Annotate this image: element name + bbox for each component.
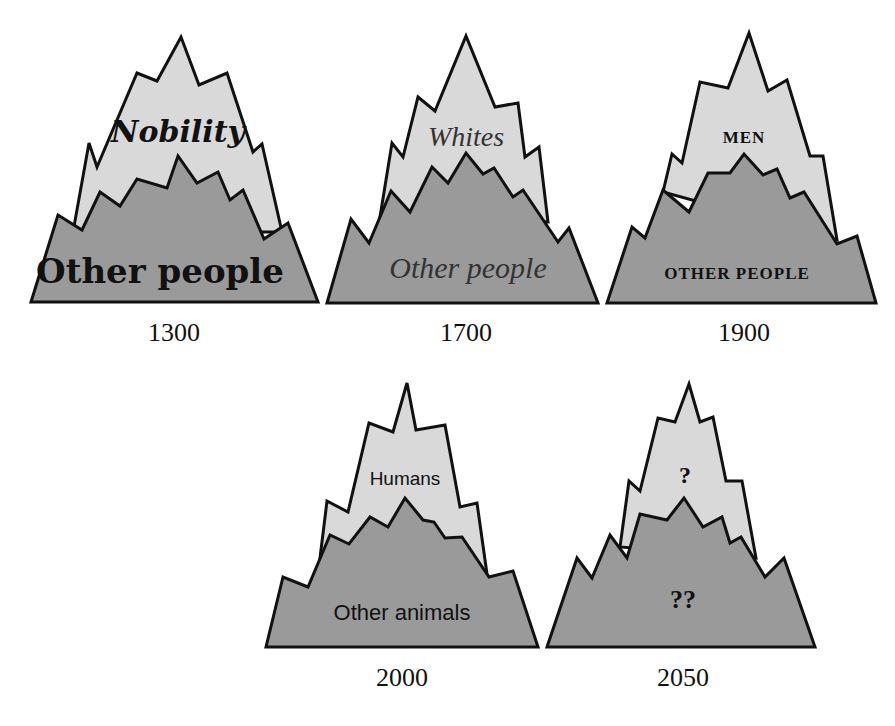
upper-label: Nobility [110, 114, 247, 149]
mountain-1900: MEN OTHER PEOPLE 1900 [607, 33, 876, 347]
year-label: 2050 [657, 663, 709, 692]
mountain-2050: ? ?? 2050 [547, 384, 815, 692]
lower-tier-unknown [547, 498, 815, 647]
lower-label: Other people [389, 251, 546, 284]
mountain-1300: Nobility Other people 1300 [31, 37, 318, 347]
upper-label: Whites [428, 121, 504, 152]
year-label: 1900 [718, 318, 770, 347]
mountain-1700: Whites Other people 1700 [327, 36, 598, 347]
mountain-2000: Humans Other animals 2000 [266, 383, 538, 692]
lower-label: Other people [36, 251, 284, 291]
year-label: 1700 [440, 318, 492, 347]
moral-circle-diagram: Nobility Other people 1300 Whites Other … [0, 0, 895, 726]
lower-label: Other animals [334, 600, 471, 625]
lower-label: OTHER PEOPLE [664, 264, 810, 283]
lower-label: ?? [670, 585, 696, 614]
year-label: 2000 [376, 663, 428, 692]
upper-label: MEN [723, 128, 766, 147]
upper-label: Humans [370, 468, 441, 489]
upper-label: ? [679, 462, 691, 488]
year-label: 1300 [148, 318, 200, 347]
